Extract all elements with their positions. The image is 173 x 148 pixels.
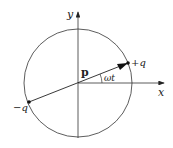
dipole-label: p	[81, 66, 89, 79]
x-axis-label: x	[158, 86, 165, 99]
positive-charge-label: +q	[131, 57, 146, 68]
angle-arc	[100, 74, 102, 83]
negative-charge-label: −q	[13, 102, 28, 113]
y-axis-label: y	[66, 8, 74, 21]
angle-label: ωt	[104, 73, 115, 83]
dipole-arrowhead	[117, 63, 128, 70]
dipole-diagram: y x p ωt +q −q	[0, 0, 173, 148]
positive-charge-dot	[126, 61, 130, 65]
